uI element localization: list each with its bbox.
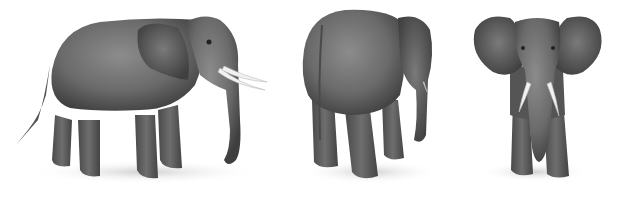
elephant-rear-view: [290, 0, 455, 215]
elephant-side-view: [0, 0, 290, 215]
elephant-front-view: [455, 0, 621, 215]
